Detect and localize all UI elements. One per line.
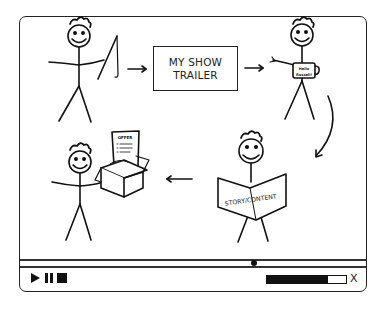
arrow-right-1 — [128, 66, 146, 72]
reader-figure — [218, 131, 286, 242]
box-figure — [52, 131, 149, 240]
mug-text-line1: Hello — [299, 67, 310, 71]
show-trailer-title-box: MY SHOW TRAILER — [153, 46, 238, 91]
mug-text-line2: Russell! — [296, 73, 313, 77]
offer-paper-title: OFFER — [118, 135, 133, 140]
title-line-1: MY SHOW — [169, 56, 222, 69]
arrow-right-2 — [245, 65, 263, 71]
volume-slider[interactable] — [266, 275, 347, 284]
title-line-2: TRAILER — [173, 69, 218, 82]
timeline-track-bottom[interactable] — [20, 266, 366, 268]
arrow-left — [167, 176, 192, 182]
playback-controls — [31, 273, 67, 283]
play-icon[interactable] — [31, 273, 40, 283]
stop-icon[interactable] — [57, 273, 67, 283]
arrow-curve-down — [316, 96, 333, 157]
timeline-track-top — [20, 259, 366, 261]
video-stage: Hello Russell! OFFER STORY/CONTENT MY SH… — [0, 0, 384, 311]
close-button[interactable]: X — [350, 272, 358, 285]
fisherman-figure — [49, 17, 118, 122]
mug-figure — [270, 17, 319, 119]
volume-level-fill — [267, 276, 328, 283]
pause-icon[interactable] — [45, 273, 53, 283]
timeline-scrubber-handle[interactable] — [251, 260, 257, 266]
